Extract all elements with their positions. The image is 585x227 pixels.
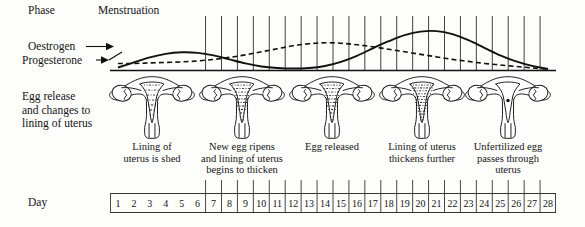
day-number-1: 1	[116, 198, 121, 209]
caption-5-line-1: Unfertilized egg	[453, 141, 563, 153]
day-number-14: 14	[320, 198, 330, 209]
day-number-9: 9	[243, 198, 248, 209]
day-number-16: 16	[352, 198, 362, 209]
day-number-18: 18	[384, 198, 394, 209]
day-number-8: 8	[227, 198, 232, 209]
day-number-21: 21	[432, 198, 442, 209]
day-number-11: 11	[272, 198, 282, 209]
caption-5-line-3: uterus	[453, 164, 563, 176]
day-number-27: 27	[527, 198, 537, 209]
day-number-15: 15	[336, 198, 346, 209]
caption-2-line-2: and lining of uterus	[187, 153, 297, 165]
day-number-5: 5	[179, 198, 184, 209]
day-number-23: 23	[463, 198, 473, 209]
caption-5-line-2: passes through	[453, 153, 563, 165]
day-number-7: 7	[211, 198, 216, 209]
day-number-24: 24	[479, 198, 489, 209]
day-number-13: 13	[304, 198, 314, 209]
day-number-6: 6	[195, 198, 200, 209]
menstrual-cycle-diagram: Phase Menstruation Oestrogen Progesteron…	[0, 0, 585, 227]
day-scale: 1234567891011121314151617181920212223242…	[0, 0, 585, 227]
day-number-25: 25	[495, 198, 505, 209]
day-number-26: 26	[511, 198, 521, 209]
day-number-28: 28	[543, 198, 553, 209]
day-number-10: 10	[256, 198, 266, 209]
day-number-2: 2	[131, 198, 136, 209]
caption-5: Unfertilized eggpasses throughuterus	[453, 141, 563, 176]
day-number-3: 3	[147, 198, 152, 209]
day-number-22: 22	[448, 198, 458, 209]
caption-2-line-3: begins to thicken	[187, 164, 297, 176]
day-number-17: 17	[368, 198, 378, 209]
day-number-19: 19	[400, 198, 410, 209]
day-number-12: 12	[288, 198, 298, 209]
day-number-4: 4	[163, 198, 168, 209]
day-number-20: 20	[416, 198, 426, 209]
